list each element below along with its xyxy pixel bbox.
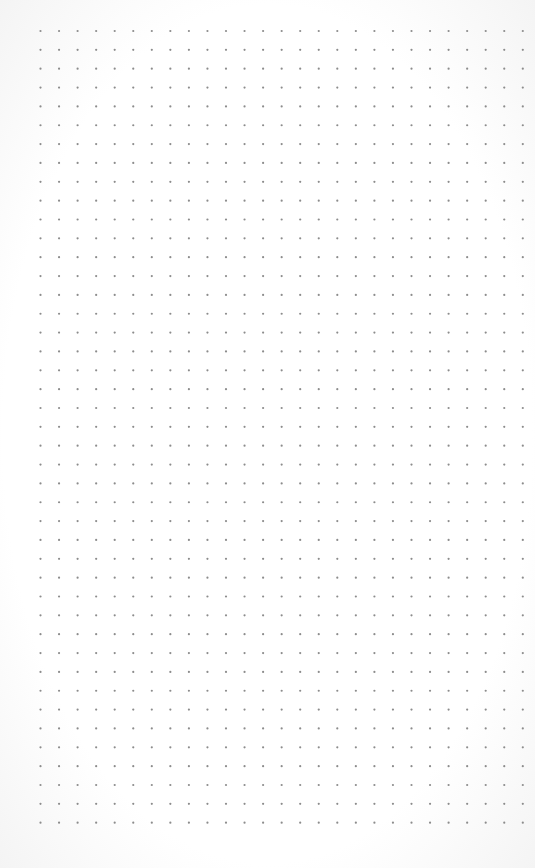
grid-dot [448,313,450,315]
grid-dot [503,765,505,767]
grid-dot [95,445,97,447]
grid-dot [206,727,208,729]
grid-dot [448,445,450,447]
grid-dot [522,218,524,220]
grid-dot [448,200,450,202]
grid-dot [225,539,227,541]
grid-dot [58,143,60,145]
grid-dot [336,690,338,692]
grid-dot [336,200,338,202]
grid-dot [169,709,171,711]
grid-dot [95,68,97,70]
grid-dot [522,445,524,447]
grid-dot [225,784,227,786]
grid-dot [206,294,208,296]
grid-dot [410,105,412,107]
grid-dot [132,746,134,748]
grid-dot [318,237,320,239]
grid-dot [373,595,375,597]
grid-dot [39,595,41,597]
grid-dot [132,313,134,315]
grid-dot [336,463,338,465]
grid-dot [39,68,41,70]
grid-dot [503,822,505,824]
grid-dot [281,294,283,296]
grid-dot [225,105,227,107]
grid-dot [243,652,245,654]
grid-dot [410,237,412,239]
grid-dot [243,445,245,447]
grid-dot [355,558,357,560]
grid-dot [466,520,468,522]
grid-dot [373,294,375,296]
grid-dot [373,218,375,220]
grid-dot [169,558,171,560]
grid-dot [58,445,60,447]
grid-dot [448,237,450,239]
grid-dot [485,275,487,277]
grid-dot [206,633,208,635]
grid-dot [466,86,468,88]
grid-dot [58,426,60,428]
grid-dot [299,746,301,748]
grid-dot [114,294,116,296]
grid-dot [151,369,153,371]
grid-dot [281,727,283,729]
grid-dot [392,445,394,447]
grid-dot [485,558,487,560]
grid-dot [39,86,41,88]
grid-dot [503,426,505,428]
grid-dot [151,313,153,315]
grid-dot [429,595,431,597]
grid-dot [355,520,357,522]
grid-dot [58,294,60,296]
grid-dot [392,803,394,805]
grid-dot [466,105,468,107]
grid-dot [262,162,264,164]
grid-dot [225,426,227,428]
grid-dot [225,577,227,579]
grid-dot [225,520,227,522]
grid-dot [206,256,208,258]
grid-dot [151,822,153,824]
grid-dot [114,86,116,88]
grid-dot [522,294,524,296]
grid-dot [281,68,283,70]
grid-dot [336,68,338,70]
grid-dot [429,30,431,32]
grid-dot [58,49,60,51]
grid-dot [225,256,227,258]
grid-dot [151,275,153,277]
grid-dot [429,803,431,805]
grid-dot [114,539,116,541]
grid-dot [336,501,338,503]
grid-dot [95,388,97,390]
grid-dot [77,275,79,277]
grid-dot [503,313,505,315]
grid-dot [429,162,431,164]
grid-dot [243,332,245,334]
grid-dot [225,313,227,315]
grid-dot [169,595,171,597]
grid-dot [132,539,134,541]
grid-dot [95,577,97,579]
grid-dot [77,294,79,296]
grid-dot [355,143,357,145]
grid-dot [522,237,524,239]
grid-dot [410,803,412,805]
grid-dot [151,105,153,107]
grid-dot [373,746,375,748]
grid-dot [355,539,357,541]
grid-dot [281,181,283,183]
grid-dot [132,86,134,88]
grid-dot [262,595,264,597]
grid-dot [95,784,97,786]
grid-dot [299,218,301,220]
grid-dot [206,482,208,484]
grid-dot [95,86,97,88]
grid-dot [95,520,97,522]
grid-dot [485,652,487,654]
grid-dot [39,482,41,484]
grid-dot [336,350,338,352]
grid-dot [522,105,524,107]
